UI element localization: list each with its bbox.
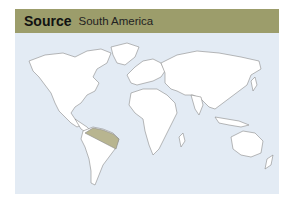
europe: [127, 59, 165, 85]
world-map: [15, 33, 279, 194]
australia: [231, 131, 263, 157]
card-subtitle: South America: [78, 15, 153, 27]
japan: [251, 77, 257, 91]
india: [191, 95, 203, 115]
madagascar: [179, 133, 185, 147]
card-title: Source: [24, 13, 71, 29]
africa: [129, 89, 177, 155]
source-card: Source South America: [15, 9, 279, 194]
new-zealand: [265, 155, 273, 169]
indonesia: [215, 117, 249, 127]
greenland: [111, 43, 139, 65]
asia: [161, 51, 261, 109]
north-america: [29, 49, 111, 127]
card-header: Source South America: [15, 9, 279, 33]
